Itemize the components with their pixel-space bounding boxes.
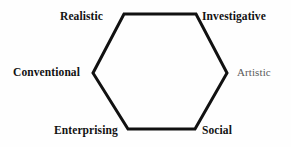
vertex-label-enterprising: Enterprising [54,125,118,137]
vertex-label-conventional: Conventional [13,67,80,79]
vertex-label-investigative: Investigative [202,11,266,23]
vertex-label-social: Social [202,125,232,137]
vertex-label-artistic: Artistic [237,67,271,78]
riasec-hexagon-diagram: Realistic Investigative Artistic Social … [0,0,291,147]
hexagon-outline [93,14,227,129]
vertex-label-realistic: Realistic [60,11,103,23]
